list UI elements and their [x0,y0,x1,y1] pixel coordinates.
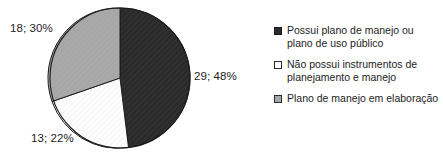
legend-item-nao-possui: Não possui instrumentos de planejamento … [274,58,442,83]
pie-chart-figure: 18; 30% 29; 48% 13; 22% Possui plano de … [0,0,443,162]
legend-label-em-elaboracao: Plano de manejo em elaboração [287,92,438,105]
legend-item-em-elaboracao: Plano de manejo em elaboração [274,92,442,105]
legend-item-possui-plano: Possui plano de manejo ou plano de uso p… [274,24,442,49]
legend-swatch-dark-square-icon [274,27,282,35]
chart-legend: Possui plano de manejo ou plano de uso p… [274,24,442,114]
legend-label-possui-plano: Possui plano de manejo ou plano de uso p… [287,24,442,49]
pie-plot-area: 18; 30% 29; 48% 13; 22% [0,0,270,162]
legend-swatch-gray-square-icon [274,95,282,103]
pie-slice-possui-plano [120,8,190,148]
data-label-em-elaboracao: 18; 30% [10,22,53,34]
legend-swatch-hollow-square-icon [274,61,282,69]
data-label-nao-possui: 13; 22% [31,132,74,144]
legend-label-nao-possui: Não possui instrumentos de planejamento … [287,58,442,83]
data-label-possui-plano: 29; 48% [194,70,237,82]
